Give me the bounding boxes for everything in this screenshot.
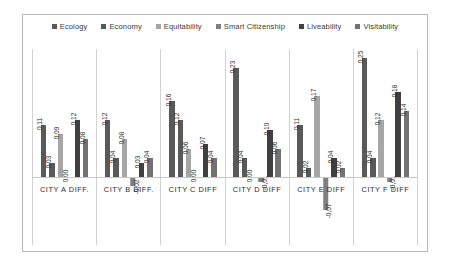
bar-value-label: 0,25	[357, 51, 364, 63]
bar-slot: 0,02	[339, 49, 346, 177]
bar-value-label: 0,06	[182, 141, 189, 153]
x-axis-tick-label: CITY B DIFF.	[96, 178, 160, 200]
bar[interactable]: 0,02	[306, 168, 312, 177]
legend-swatch-icon	[156, 24, 161, 29]
bar[interactable]: 0,08	[122, 139, 128, 177]
legend-item-label: Visitability	[363, 23, 398, 31]
grid-column	[225, 199, 289, 245]
grid-column	[160, 199, 224, 245]
chart-container: EcologyEconomyEquitabilitySmart Citizens…	[22, 14, 428, 252]
bar[interactable]: 0,04	[113, 158, 119, 177]
bar-value-label: 0,17	[310, 89, 317, 101]
x-axis-tick-label: CITY E DIFF	[289, 178, 353, 200]
bar-value-label: 0,02	[335, 160, 342, 172]
bar-value-label: 0,03	[134, 156, 141, 168]
x-axis-labels: CITY A DIFF.CITY B DIFF.CITY C DIFFCITY …	[32, 177, 418, 200]
bar-value-label: 0,06	[271, 141, 278, 153]
lower-grid-columns	[32, 199, 418, 245]
bar-slot: 0,02	[305, 49, 312, 177]
bar[interactable]: 0,04	[211, 158, 217, 177]
bar-value-label: 0,07	[199, 137, 206, 149]
legend-item[interactable]: Liveability	[299, 23, 341, 31]
bar-value-label: 0,11	[293, 118, 300, 130]
bar[interactable]: 0,06	[275, 149, 281, 177]
grid-column	[353, 199, 418, 245]
grid-column	[32, 199, 96, 245]
bar-slot: 0,09	[57, 49, 64, 177]
chart-legend: EcologyEconomyEquitabilitySmart Citizens…	[23, 23, 427, 31]
bar-slot: 0,00	[249, 49, 256, 177]
bar-value-label: 0,18	[391, 84, 398, 96]
legend-item[interactable]: Ecology	[52, 23, 88, 31]
bar-value-label: 0,04	[366, 151, 373, 163]
bar[interactable]: 0,12	[378, 120, 384, 177]
bar-slot: 0,04	[113, 49, 120, 177]
legend-swatch-icon	[52, 24, 57, 29]
bar-value-label: 0,04	[109, 151, 116, 163]
bar-value-label: 0,08	[118, 132, 125, 144]
bar-value-label: 0,14	[400, 103, 407, 115]
bar-slot: 0,12	[378, 49, 385, 177]
grid-column	[289, 199, 353, 245]
legend-item[interactable]: Equitability	[156, 23, 202, 31]
legend-swatch-icon	[101, 24, 106, 29]
bar-value-label: 0,03	[45, 156, 52, 168]
bar-slot: 0,08	[121, 49, 128, 177]
bar-slot: 0,14	[403, 49, 410, 177]
bar[interactable]: 0,17	[314, 96, 320, 177]
legend-swatch-icon	[355, 24, 360, 29]
bar-slot: 0,06	[275, 49, 282, 177]
bar[interactable]: 0,04	[370, 158, 376, 177]
bar-slot-row: 0,110,020,17-0,070,040,02	[290, 49, 353, 177]
bar-slot: 0,08	[82, 49, 89, 177]
legend-swatch-icon	[216, 24, 221, 29]
bar-value-label: 0,16	[165, 94, 172, 106]
bar-value-label: 0,04	[327, 151, 334, 163]
legend-item[interactable]: Economy	[101, 23, 141, 31]
bar-slot: 0,03	[48, 49, 55, 177]
bar-slot: -0,01	[386, 49, 393, 177]
grid-column	[96, 199, 160, 245]
bar-value-label: 0,12	[374, 113, 381, 125]
bar-slot-row: 0,110,030,090,000,120,08	[33, 49, 96, 177]
legend-item[interactable]: Smart Citizenship	[216, 23, 285, 31]
bar[interactable]: 0,12	[105, 120, 111, 177]
bar-value-label: 0,02	[302, 160, 309, 172]
legend-item-label: Economy	[109, 23, 141, 31]
bar-slot: -0,01	[258, 49, 265, 177]
legend-item-label: Equitability	[164, 23, 202, 31]
bar-value-label: 0,04	[237, 151, 244, 163]
legend-item[interactable]: Visitability	[355, 23, 398, 31]
x-axis-tick-label: CITY C DIFF	[160, 178, 224, 200]
bar-slot: 0,04	[241, 49, 248, 177]
legend-item-label: Smart Citizenship	[224, 23, 285, 31]
x-axis-tick-label: CITY F DIFF	[353, 178, 418, 200]
bar-value-label: 0,08	[79, 132, 86, 144]
bar-slot: 0,06	[185, 49, 192, 177]
bar-slot: 0,12	[177, 49, 184, 177]
bar[interactable]: 0,08	[83, 139, 89, 177]
bar-slot-row: 0,160,120,060,000,070,04	[161, 49, 224, 177]
bar-slot: 0,17	[314, 49, 321, 177]
bar-slot: 0,00	[194, 49, 201, 177]
bar[interactable]: 0,12	[75, 120, 81, 177]
bar[interactable]: 0,04	[147, 158, 153, 177]
legend-swatch-icon	[299, 24, 304, 29]
x-axis-tick-label: CITY A DIFF.	[32, 178, 96, 200]
bar-slot: 0,04	[330, 49, 337, 177]
bar-value-label: 0,11	[36, 118, 43, 130]
bar[interactable]: 0,03	[139, 163, 145, 177]
bar-value-label: 0,04	[143, 151, 150, 163]
bar[interactable]: 0,02	[340, 168, 346, 177]
bar-slot: 0,12	[74, 49, 81, 177]
bar-slot: 0,04	[146, 49, 153, 177]
bar[interactable]: 0,11	[41, 125, 47, 177]
bar-value-label: 0,10	[263, 122, 270, 134]
bar-slot-row: 0,250,040,12-0,010,180,14	[354, 49, 417, 177]
bar-value-label: 0,12	[70, 113, 77, 125]
bar[interactable]: 0,03	[49, 163, 55, 177]
legend-item-label: Liveability	[307, 23, 341, 31]
bar-slot-row: 0,230,040,00-0,010,100,06	[226, 49, 289, 177]
bar-value-label: 0,04	[207, 151, 214, 163]
bar[interactable]: 0,14	[404, 111, 410, 177]
